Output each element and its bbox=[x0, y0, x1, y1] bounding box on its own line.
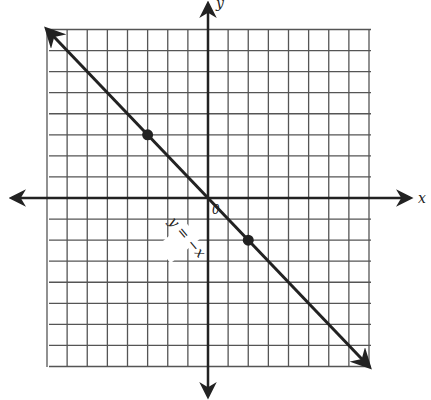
plotted-point bbox=[142, 129, 153, 140]
x-axis-label: x bbox=[418, 190, 426, 206]
plotted-point bbox=[243, 235, 254, 246]
coordinate-plane: x y 0 y = −x bbox=[0, 0, 431, 400]
y-axis-label: y bbox=[215, 0, 225, 11]
origin-label: 0 bbox=[212, 203, 220, 217]
